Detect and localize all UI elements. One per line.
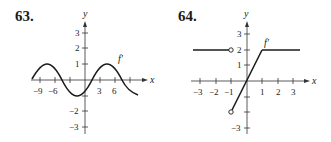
svg-text:3: 3 [75,28,80,38]
svg-text:6: 6 [112,86,117,96]
svg-text:−3: −3 [69,122,79,132]
svg-text:2: 2 [276,87,281,97]
x-axis-label: x [311,75,317,86]
svg-text:−9: −9 [33,86,43,96]
curve-label: f′ [118,53,124,64]
open-circle-point [229,110,233,114]
svg-text:1: 1 [237,60,242,70]
svg-text:−2: −2 [69,106,79,116]
svg-text:1: 1 [260,87,265,97]
x-axis-label: x [149,74,155,85]
y-axis-arrow-icon [83,21,87,27]
svg-text:−3: −3 [231,123,241,133]
svg-text:3: 3 [97,86,102,96]
svg-text:2: 2 [237,45,242,55]
svg-text:−2: −2 [209,87,219,97]
curve-label: f′ [264,37,270,48]
svg-text:−6: −6 [48,86,58,96]
y-axis-label: y [243,8,249,19]
x-axis-arrow-icon [304,79,310,83]
y-axis-label: y [82,8,88,19]
svg-text:2: 2 [75,43,80,53]
y-axis-arrow-icon [245,21,249,27]
svg-text:1: 1 [75,59,80,69]
graph-64: x y −3 −2 −1 1 2 3 3 2 1 −3 [191,8,317,134]
svg-text:−3: −3 [193,87,203,97]
svg-text:3: 3 [237,29,242,39]
graph-63: x y −9 −6 3 6 3 2 1 −2 −3 f′ [31,8,155,134]
svg-text:3: 3 [291,87,296,97]
svg-text:−1: −1 [224,87,234,97]
open-circle-point [229,48,233,52]
x-axis-arrow-icon [142,78,148,82]
graphs-canvas: x y −9 −6 3 6 3 2 1 −2 −3 f′ [0,0,331,142]
